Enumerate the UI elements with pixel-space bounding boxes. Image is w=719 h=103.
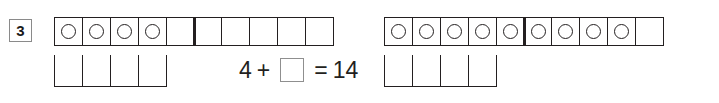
- ten-frame-cell[interactable]: [524, 18, 552, 45]
- ten-frame-cell[interactable]: [552, 18, 580, 45]
- missing-addend-answer-box[interactable]: [280, 58, 304, 82]
- circle-counter-icon: [475, 24, 490, 39]
- ten-frame-cell[interactable]: [139, 55, 167, 86]
- ten-frame-cell[interactable]: [385, 18, 413, 45]
- ten-frame-top-row-1: [54, 17, 334, 46]
- ten-frame-cell[interactable]: [413, 55, 441, 86]
- circle-counter-icon: [558, 24, 573, 39]
- ten-frame-cell[interactable]: [111, 18, 139, 45]
- ten-frame-cell[interactable]: [250, 18, 278, 45]
- ten-frame-cell[interactable]: [636, 18, 664, 45]
- problem-2: 9 + = 14: [384, 0, 719, 103]
- problem-1: 4 + = 14: [54, 0, 344, 103]
- ten-frame-cell[interactable]: [139, 18, 167, 45]
- plus-operator: +: [257, 59, 270, 82]
- ten-frame-top-row-2: [384, 17, 664, 46]
- circle-counter-icon: [586, 24, 601, 39]
- ten-frame-cell[interactable]: [83, 18, 111, 45]
- circle-counter-icon: [614, 24, 629, 39]
- circle-counter-icon: [89, 24, 104, 39]
- worksheet-problem-row: 3 4 + = 14: [0, 0, 719, 103]
- ten-frame-cell[interactable]: [469, 55, 497, 86]
- equation-addend: 4: [239, 59, 252, 82]
- circle-counter-icon: [447, 24, 462, 39]
- circle-counter-icon: [117, 24, 132, 39]
- ten-frame-cell[interactable]: [441, 55, 469, 86]
- equation-1: 4 + = 14: [239, 58, 358, 82]
- ten-frame-cell[interactable]: [385, 55, 413, 86]
- circle-counter-icon: [419, 24, 434, 39]
- ten-frame-cell[interactable]: [111, 55, 139, 86]
- problem-number-badge: 3: [9, 19, 32, 42]
- ten-frame-cell[interactable]: [608, 18, 636, 45]
- circle-counter-icon: [531, 24, 546, 39]
- circle-counter-icon: [61, 24, 76, 39]
- ten-frame-cell[interactable]: [278, 18, 306, 45]
- ten-frame-cell[interactable]: [469, 18, 497, 45]
- equals-operator: =: [314, 59, 327, 82]
- ten-frame-cell[interactable]: [55, 18, 83, 45]
- ten-frame-cell[interactable]: [222, 18, 250, 45]
- ten-frame-bottom-row-2: [384, 55, 497, 87]
- circle-counter-icon: [391, 24, 406, 39]
- ten-frame-cell[interactable]: [83, 55, 111, 86]
- ten-frame-bottom-row-1: [54, 55, 167, 87]
- ten-frame-cell[interactable]: [306, 18, 334, 45]
- ten-frame-cell[interactable]: [194, 18, 222, 45]
- equation-sum: 14: [333, 59, 359, 82]
- ten-frame-cell[interactable]: [55, 55, 83, 86]
- ten-frame-cell[interactable]: [413, 18, 441, 45]
- ten-frame-cell[interactable]: [497, 18, 525, 45]
- ten-frame-cell[interactable]: [580, 18, 608, 45]
- circle-counter-icon: [145, 24, 160, 39]
- ten-frame-cell[interactable]: [441, 18, 469, 45]
- circle-counter-icon: [503, 24, 518, 39]
- ten-frame-cell[interactable]: [167, 18, 195, 45]
